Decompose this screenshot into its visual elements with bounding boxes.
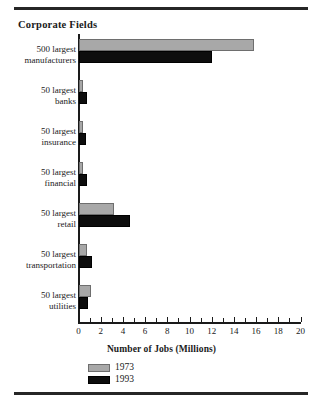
legend-swatch-1973 (88, 364, 110, 372)
x-tick-label: 4 (113, 326, 133, 336)
x-tick-major (190, 317, 191, 322)
x-tick-minor (245, 318, 246, 322)
bar-1973 (79, 39, 254, 51)
bar-group: 50 largest financial (0, 159, 323, 195)
legend-item: 1973 (88, 362, 134, 373)
x-tick-minor (178, 318, 179, 322)
bar-pair (79, 162, 88, 186)
bar-1993 (79, 297, 89, 309)
bar-1993 (79, 215, 130, 227)
bar-pair (79, 285, 91, 309)
bar-group: 50 largest banks (0, 77, 323, 113)
bar-pair (79, 203, 130, 227)
x-axis: 02468101214161820 (0, 322, 323, 323)
bar-1993 (79, 133, 87, 145)
legend-item: 1993 (88, 374, 134, 385)
x-tick-label: 10 (180, 326, 200, 336)
top-divider-rule (14, 7, 308, 10)
category-label: 50 largest utilities (10, 290, 76, 311)
bar-group: 50 largest insurance (0, 118, 323, 154)
bar-1973 (79, 285, 91, 297)
figure-panel: Corporate Fields 500 largest manufacture… (0, 0, 323, 406)
x-tick-major (212, 317, 213, 322)
x-tick-major (278, 317, 279, 322)
bar-pair (79, 121, 87, 145)
bar-1973 (79, 244, 88, 256)
bar-group: 50 largest transportation (0, 241, 323, 277)
plot-area: 500 largest manufacturers50 largest bank… (0, 34, 323, 322)
category-label: 50 largest financial (10, 167, 76, 188)
category-label: 50 largest insurance (10, 126, 76, 147)
legend-label-1973: 1973 (115, 362, 134, 373)
x-tick-minor (289, 318, 290, 322)
bar-group: 50 largest utilities (0, 282, 323, 318)
chart-legend: 1973 1993 (88, 362, 134, 386)
x-axis-line (78, 322, 301, 324)
bar-1973 (79, 162, 83, 174)
x-tick-major (301, 317, 302, 322)
x-tick-label: 0 (69, 326, 89, 336)
x-tick-label: 12 (202, 326, 222, 336)
bar-pair (79, 39, 254, 63)
x-tick-label: 16 (246, 326, 266, 336)
x-tick-minor (134, 318, 135, 322)
x-tick-label: 8 (157, 326, 177, 336)
x-tick-label: 18 (268, 326, 288, 336)
category-label: 500 largest manufacturers (10, 44, 76, 65)
x-tick-label: 2 (91, 326, 111, 336)
x-tick-major (79, 317, 80, 322)
bar-1973 (79, 121, 83, 133)
bar-group: 500 largest manufacturers (0, 36, 323, 72)
x-tick-label: 20 (291, 326, 311, 336)
x-tick-minor (223, 318, 224, 322)
bar-pair (79, 80, 88, 104)
x-tick-major (234, 317, 235, 322)
chart-title: Corporate Fields (18, 19, 97, 30)
legend-swatch-1993 (88, 376, 110, 384)
bottom-divider-rule (14, 392, 308, 395)
x-tick-label: 6 (135, 326, 155, 336)
x-tick-label: 14 (224, 326, 244, 336)
x-tick-major (123, 317, 124, 322)
legend-label-1993: 1993 (115, 374, 134, 385)
x-tick-minor (90, 318, 91, 322)
bar-pair (79, 244, 92, 268)
bar-1973 (79, 203, 115, 215)
bar-1993 (79, 174, 88, 186)
x-axis-label: Number of Jobs (Millions) (0, 344, 323, 354)
bar-1993 (79, 51, 212, 63)
x-tick-major (167, 317, 168, 322)
category-label: 50 largest transportation (10, 249, 76, 270)
x-tick-minor (156, 318, 157, 322)
x-tick-major (101, 317, 102, 322)
bar-1973 (79, 80, 83, 92)
x-tick-minor (267, 318, 268, 322)
bar-1993 (79, 92, 88, 104)
bar-group: 50 largest retail (0, 200, 323, 236)
category-label: 50 largest retail (10, 208, 76, 229)
x-tick-major (145, 317, 146, 322)
category-label: 50 largest banks (10, 85, 76, 106)
x-tick-minor (201, 318, 202, 322)
x-tick-minor (112, 318, 113, 322)
bar-1993 (79, 256, 92, 268)
x-tick-major (256, 317, 257, 322)
